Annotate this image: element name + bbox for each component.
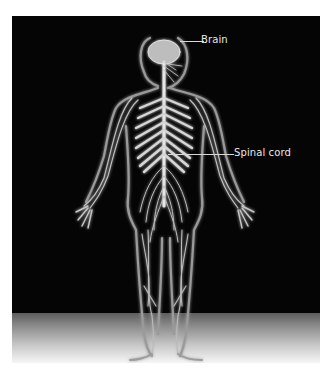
hands [76,206,254,228]
intercostal-nerves-right [164,98,192,172]
spinal-cord-label: Spinal cord [234,147,291,158]
brain-label: Brain [201,34,228,45]
illustration-panel [12,16,320,363]
spinal-cord-leader-line [168,154,234,155]
brain-shape [148,40,180,64]
nervous-system-figure [12,16,320,363]
intercostal-nerves-left [136,98,164,172]
feet [130,354,202,360]
leg-nerves [142,230,188,354]
cranial-nerves [164,62,182,82]
